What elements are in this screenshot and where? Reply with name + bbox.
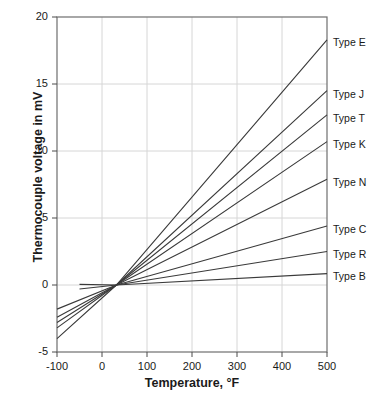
series-label-type-t: Type T [333, 112, 365, 124]
x-tick-label: 200 [169, 360, 215, 372]
x-tick-label: 300 [214, 360, 260, 372]
x-tick-label: 400 [259, 360, 305, 372]
series-label-type-j: Type J [333, 88, 364, 100]
x-axis-label: Temperature, °F [57, 376, 327, 390]
thermocouple-voltage-chart: Thermocouple voltage in mV Temperature, … [0, 0, 375, 408]
series-label-type-b: Type B [333, 270, 366, 282]
series-label-type-c: Type C [333, 223, 366, 235]
series-line-type-b [80, 274, 328, 285]
y-tick-label: -5 [18, 345, 48, 357]
y-tick-label: 5 [18, 211, 48, 223]
y-tick-label: 10 [18, 144, 48, 156]
x-tick-label: 100 [124, 360, 170, 372]
x-tick-label: -100 [34, 360, 80, 372]
y-tick-label: 15 [18, 77, 48, 89]
series-label-type-n: Type N [333, 176, 366, 188]
x-tick-label: 0 [79, 360, 125, 372]
series-label-type-k: Type K [333, 138, 366, 150]
x-tick-label: 500 [304, 360, 350, 372]
series-label-type-e: Type E [333, 36, 366, 48]
y-tick-label: 20 [18, 10, 48, 22]
y-tick-label: 0 [18, 278, 48, 290]
chart-canvas [0, 0, 375, 408]
series-label-type-r: Type R [333, 248, 366, 260]
series-line-type-r [80, 252, 328, 290]
